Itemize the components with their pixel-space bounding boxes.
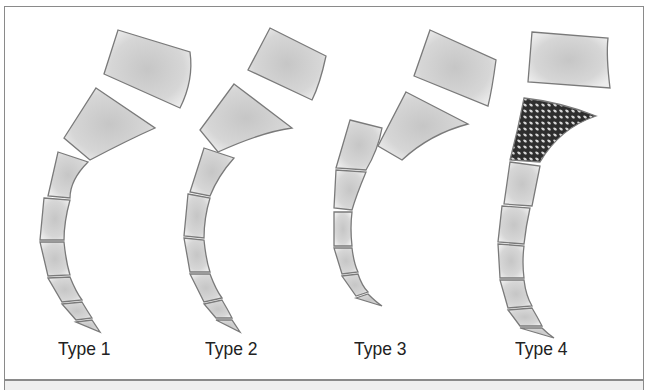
diagram-canvas	[0, 0, 650, 390]
type-2-structure	[184, 28, 326, 332]
type-2-label: Type 2	[205, 338, 257, 360]
type-4-structure	[498, 32, 610, 338]
type-1-structure	[40, 30, 191, 332]
type-3-label: Type 3	[354, 338, 406, 360]
type-4-label: Type 4	[515, 338, 567, 360]
type-1-label: Type 1	[58, 338, 110, 360]
type-3-structure	[334, 30, 496, 306]
